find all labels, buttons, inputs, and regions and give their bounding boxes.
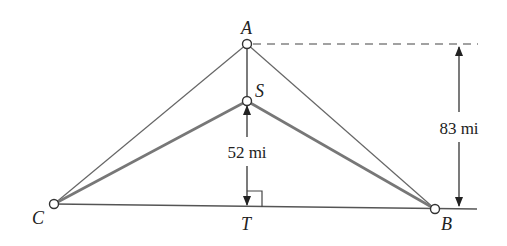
- dim-label-83: 83 mi: [439, 119, 478, 138]
- dim-label-52: 52 mi: [227, 143, 266, 162]
- point-b: [431, 205, 440, 214]
- line-sb: [247, 101, 435, 209]
- line-sc: [54, 101, 247, 204]
- label-b: B: [441, 214, 452, 234]
- triangle-diagram: 52 mi 83 mi A S C T B: [0, 0, 507, 246]
- base-line-cb: [54, 204, 477, 209]
- label-s: S: [255, 81, 264, 101]
- right-angle-marker: [247, 191, 262, 207]
- point-c: [50, 200, 59, 209]
- point-a: [243, 40, 252, 49]
- line-ab: [247, 44, 435, 209]
- point-s: [243, 97, 252, 106]
- label-t: T: [241, 214, 253, 234]
- label-c: C: [32, 208, 45, 228]
- line-ac: [54, 44, 247, 204]
- label-a: A: [240, 18, 253, 38]
